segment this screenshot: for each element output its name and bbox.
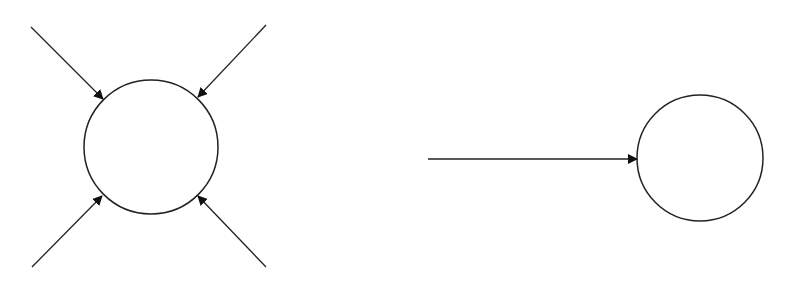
arrow-bottom-right-icon [198, 196, 266, 267]
right-node-circle [637, 95, 763, 221]
right-node-group [428, 95, 763, 221]
arrow-top-left-icon [31, 27, 103, 99]
arrow-top-right-icon [198, 25, 266, 97]
diagram-canvas [0, 0, 790, 281]
arrow-bottom-left-icon [32, 196, 102, 267]
left-node-group [31, 25, 266, 267]
left-node-circle [84, 80, 218, 214]
